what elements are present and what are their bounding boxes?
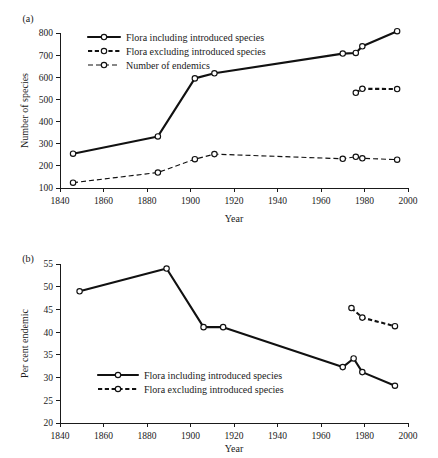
panel-b-axis-lines [60,264,408,423]
panel-b-data-point [392,324,397,329]
panel-b-data-point [220,324,225,329]
panel-b-data-point [351,356,356,361]
panel-b-data-point [77,289,82,294]
panel-b-y-tick-label: 45 [44,305,54,315]
panel-a-legend-marker [101,34,106,39]
panel-a-data-point [70,151,75,156]
panel-a-x-tick-label: 2000 [399,196,418,206]
panel-a-data-point [360,44,365,49]
panel-a-data-point [70,180,75,185]
panel-a-data-point [353,154,358,159]
figure-svg: (a)1002003004005006007008001840186018801… [0,0,438,458]
panel-b-data-point [392,383,397,388]
panel-b-legend-label: Flora excluding introduced species [144,384,284,395]
panel-a-data-point [353,90,358,95]
panel-a-x-tick-label: 1900 [181,196,200,206]
panel-b-x-tick-label: 2000 [399,431,418,441]
panel-a-x-tick-label: 1960 [312,196,331,206]
panel-a-data-point [340,156,345,161]
panel-b-legend-marker [115,386,120,391]
panel-b-x-tick-label: 1920 [225,431,244,441]
panel-a-data-point [360,156,365,161]
panel-a-data-point [353,50,358,55]
panel-b-x-tick-label: 1980 [355,431,374,441]
panel-b-y-tick-label: 35 [44,350,54,360]
panel-a-data-point [394,157,399,162]
panel-b-x-tick-label: 1940 [268,431,287,441]
panel-b-data-point [340,364,345,369]
panel-a-data-point [360,86,365,91]
panel-b-data-point [360,369,365,374]
panel-b-x-tick-label: 1840 [51,431,70,441]
panel-a-data-point [155,134,160,139]
panel-a-y-tick-label: 500 [39,95,54,105]
panel-b-y-tick-label: 30 [44,373,54,383]
panel-a-y-tick-label: 300 [39,139,54,149]
panel-a-series [70,151,399,185]
panel-b-y-tick-label: 55 [44,259,54,269]
panel-a-y-tick-label: 600 [39,73,54,83]
panel-a-x-tick-label: 1860 [94,196,113,206]
panel-a-x-axis-title: Year [225,213,244,224]
panel-b-y-axis-title: Per cent endemic [19,309,30,378]
panel-a: (a)1002003004005006007008001840186018801… [19,13,418,224]
panel-b-x-tick-label: 1860 [94,431,113,441]
panel-a-data-point [192,76,197,81]
panel-b-legend-marker [115,372,120,377]
panel-b-legend-label: Flora including introduced species [144,370,282,381]
panel-b-y-tick-label: 20 [44,418,54,428]
panel-a-series [353,86,400,95]
panel-b-panel-label: (b) [22,253,34,265]
panel-a-series-line-2 [73,154,397,183]
panel-a-data-point [155,170,160,175]
panel-b-y-tick-label: 25 [44,396,54,406]
panel-b-series [349,305,398,329]
panel-b-x-tick-label: 1960 [312,431,331,441]
panel-b-y-tick-label: 40 [44,328,54,338]
panel-a-legend: Flora including introduced speciesFlora … [88,32,266,71]
panel-a-legend-marker [101,48,106,53]
panel-a-legend-label: Flora excluding introduced species [126,46,266,57]
panel-a-x-tick-label: 1940 [268,196,287,206]
panel-b-legend: Flora including introduced speciesFlora … [98,370,284,395]
panel-a-y-tick-label: 100 [39,183,54,193]
panel-a-data-point [192,157,197,162]
panel-b-x-tick-label: 1900 [181,431,200,441]
panel-a-x-tick-label: 1880 [138,196,157,206]
panel-a-x-tick-label: 1980 [355,196,374,206]
panel-a-panel-label: (a) [22,13,33,25]
panel-a-data-point [394,86,399,91]
panel-a-data-point [212,151,217,156]
panel-b-series-line-1 [351,308,395,326]
panel-b: (b)2025303540455055184018601880190019201… [19,253,418,454]
panel-a-y-axis-title: Number of species [19,73,30,148]
panel-a-y-tick-label: 700 [39,51,54,61]
panel-b-data-point [349,305,354,310]
panel-a-y-tick-label: 200 [39,161,54,171]
panel-b-x-axis-title: Year [225,443,244,454]
panel-b-series-line-0 [80,269,395,386]
panel-a-legend-label: Number of endemics [126,60,210,71]
panel-a-x-tick-label: 1920 [225,196,244,206]
panel-a-legend-marker [101,62,106,67]
panel-a-y-tick-label: 400 [39,117,54,127]
panel-b-x-tick-label: 1880 [138,431,157,441]
panel-b-data-point [360,315,365,320]
panel-b-data-point [164,266,169,271]
panel-b-y-tick-label: 50 [44,282,54,292]
panel-a-data-point [212,71,217,76]
panel-a-data-point [394,29,399,34]
panel-b-data-point [201,324,206,329]
panel-a-x-tick-label: 1840 [51,196,70,206]
panel-a-y-tick-label: 800 [39,28,54,38]
panel-a-data-point [340,51,345,56]
panel-a-legend-label: Flora including introduced species [126,32,264,43]
figure-container: (a)1002003004005006007008001840186018801… [0,0,438,458]
